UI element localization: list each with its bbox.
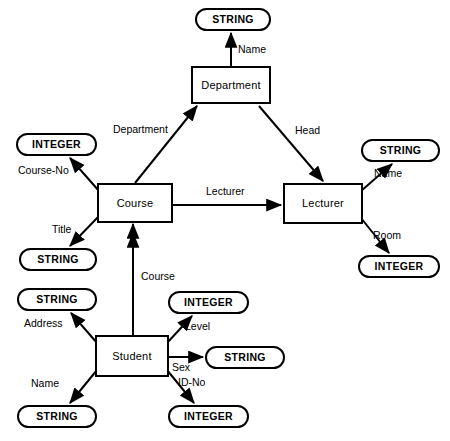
value-node-student-sex-string: STRING <box>205 346 285 369</box>
node-label: STRING <box>36 294 77 305</box>
node-label: Department <box>201 80 260 91</box>
edge-label-lecturer-room: Room <box>373 230 401 241</box>
edge-label-lecturer-name: Name <box>374 168 402 179</box>
value-node-student-address-string: STRING <box>17 288 97 311</box>
edge-line <box>71 313 97 343</box>
value-node-dept-name-string: STRING <box>195 8 271 31</box>
node-label: Student <box>112 351 151 362</box>
value-node-student-level-integer: INTEGER <box>168 291 249 314</box>
edge-label-department-name: Name <box>238 44 266 55</box>
edge-line <box>70 370 97 403</box>
node-label: STRING <box>212 14 253 25</box>
node-label: Lecturer <box>302 198 344 209</box>
value-node-course-title-string: STRING <box>19 248 97 271</box>
edge-department-head <box>259 106 323 181</box>
node-label: STRING <box>36 411 77 422</box>
node-label: STRING <box>224 352 265 363</box>
node-label: Course <box>117 198 154 209</box>
edge-label-student-sex: Sex <box>172 362 190 373</box>
entity-node-course: Course <box>97 183 173 223</box>
entity-node-student: Student <box>95 335 169 377</box>
edge-label-student-name: Name <box>31 378 59 389</box>
edge-label-course-department: Department <box>113 124 168 135</box>
value-node-student-idno-integer: INTEGER <box>168 405 249 428</box>
node-label: INTEGER <box>184 411 233 422</box>
edge-label-student-address: Address <box>24 318 63 329</box>
edge-line <box>259 106 323 181</box>
value-node-lecturer-name-string: STRING <box>361 139 440 162</box>
edge-course-department <box>135 106 197 183</box>
node-label: STRING <box>380 145 421 156</box>
edge-line <box>70 158 99 191</box>
value-node-lecturer-room-integer: INTEGER <box>358 255 440 278</box>
edge-line <box>70 216 99 246</box>
edge-course-course-no <box>70 158 99 191</box>
edge-label-course-course-no: Course-No <box>18 165 69 176</box>
edge-label-student-level: Level <box>185 321 210 332</box>
edge-student-name <box>70 370 97 403</box>
edge-course-title <box>70 216 99 246</box>
edge-student-address <box>71 313 97 343</box>
value-node-student-name-string: STRING <box>17 405 97 428</box>
entity-node-department: Department <box>191 66 271 104</box>
node-label: INTEGER <box>184 297 233 308</box>
er-diagram: DepartmentCourseLecturerStudentSTRINGINT… <box>0 0 450 441</box>
node-label: INTEGER <box>375 261 424 272</box>
edge-line <box>135 106 197 183</box>
value-node-course-no-integer: INTEGER <box>16 133 97 156</box>
edge-label-course-title: Title <box>52 224 71 235</box>
edge-label-department-head: Head <box>295 125 320 136</box>
edge-label-student-course: Course <box>141 271 175 282</box>
edge-label-course-lecturer: Lecturer <box>206 186 245 197</box>
edge-label-student-id-no: ID-No <box>178 377 205 388</box>
node-label: INTEGER <box>32 139 81 150</box>
entity-node-lecturer: Lecturer <box>283 183 363 224</box>
node-label: STRING <box>37 254 78 265</box>
